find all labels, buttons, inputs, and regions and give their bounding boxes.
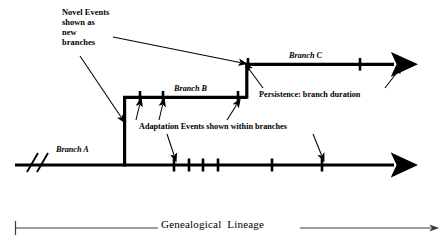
persistence-label: Persistence: branch duration	[259, 90, 360, 100]
branch-a-group	[15, 153, 394, 172]
adaptation-to-branch-b-tick-2-arrow	[159, 105, 163, 120]
figure-canvas: Novel Events shown as new branches Branc…	[0, 0, 446, 249]
branch-a-break-mark-2	[37, 153, 48, 172]
adaptation-to-branch-a-tick-1-arrow	[167, 134, 174, 155]
novel-events-to-branch-b-arrow	[80, 56, 121, 117]
adaptation-events-label: Adaptation Events shown within branches	[139, 122, 287, 132]
adaptation-to-branch-b-tick-1-arrow	[136, 105, 140, 120]
adaptation-to-branch-a-tick-6-arrow	[313, 134, 322, 155]
branch-c-label: Branch C	[289, 51, 322, 61]
branch-b-label: Branch B	[174, 84, 207, 94]
novel-events-label: Novel Events shown as new branches	[62, 8, 109, 48]
branch-a-break-mark-1	[27, 153, 38, 172]
novel-events-to-branch-c-arrow	[113, 37, 240, 63]
adaptation-to-branch-b-tick-3-arrow	[227, 105, 237, 120]
persistence-to-branch-c-start-arrow	[249, 69, 263, 88]
branch-a-label: Branch A	[56, 145, 89, 155]
genealogical-lineage-axis-label: Genealogical Lineage	[161, 218, 264, 231]
persistence-to-branch-c-end-arrow	[385, 71, 398, 88]
